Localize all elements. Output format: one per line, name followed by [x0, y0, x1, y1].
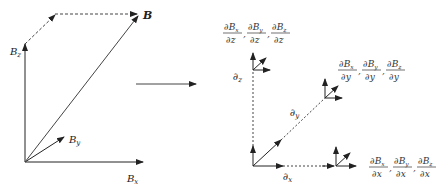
- x-frac3-num: ∂Bz: [418, 156, 433, 167]
- origin-y-arrow: [253, 140, 281, 166]
- y-frac1-num: ∂Bx: [339, 59, 354, 70]
- y-triad: [325, 79, 342, 98]
- dz-label: ∂z: [233, 71, 242, 84]
- diagram-canvas: B Bz By Bx: [0, 0, 444, 191]
- by-label: By: [68, 134, 81, 147]
- x-frac3-den: ∂x: [420, 169, 430, 179]
- by-arrow: [25, 137, 64, 162]
- svg-text:,: ,: [389, 163, 392, 173]
- z-derivatives: ∂Bx ∂z , ∂By ∂z , ∂Bz ∂z: [223, 22, 290, 45]
- y-frac2-den: ∂y: [365, 72, 376, 82]
- right-gradient-diagram: ∂z ∂y ∂x ∂Bx ∂z , ∂By ∂z , ∂Bz ∂z ∂Bx ∂y…: [223, 22, 436, 184]
- dy-dashed-path: [281, 98, 325, 140]
- x-frac1-num: ∂Bx: [370, 156, 385, 167]
- z-frac1-num: ∂Bx: [224, 22, 239, 33]
- x-frac1-den: ∂x: [372, 169, 382, 179]
- y-triad-diag-arrow: [325, 86, 338, 98]
- z-frac3-den: ∂z: [274, 35, 284, 45]
- svg-text:,: ,: [382, 66, 385, 76]
- dy-label: ∂y: [290, 107, 300, 120]
- bx-label: Bx: [126, 173, 138, 186]
- svg-text:,: ,: [358, 66, 361, 76]
- z-frac3-num: ∂Bz: [272, 22, 287, 33]
- y-frac3-num: ∂Bz: [387, 59, 402, 70]
- b-vector-arrow: [25, 16, 138, 162]
- x-triad-diag-arrow: [336, 153, 350, 166]
- z-frac2-num: ∂By: [248, 22, 263, 34]
- svg-text:,: ,: [267, 29, 270, 39]
- z-frac2-den: ∂z: [250, 35, 260, 45]
- x-frac2-num: ∂By: [394, 156, 409, 168]
- dashed-bz-to-by: [25, 15, 55, 44]
- y-frac2-num: ∂By: [363, 59, 378, 71]
- y-frac3-den: ∂y: [389, 72, 400, 82]
- bz-label: Bz: [9, 46, 21, 59]
- x-derivatives: ∂Bx ∂x , ∂By ∂x , ∂Bz ∂x: [369, 156, 436, 179]
- z-triad: [253, 53, 270, 70]
- dx-label: ∂x: [283, 171, 292, 184]
- x-triad: [322, 147, 356, 166]
- y-derivatives: ∂Bx ∂y , ∂By ∂y , ∂Bz ∂y: [338, 59, 405, 82]
- b-label: B: [142, 9, 152, 22]
- svg-text:,: ,: [243, 29, 246, 39]
- y-frac1-den: ∂y: [341, 72, 352, 82]
- x-frac2-den: ∂x: [396, 169, 406, 179]
- z-triad-diag-arrow: [253, 58, 266, 70]
- svg-text:,: ,: [413, 163, 416, 173]
- left-vector-diagram: B Bz By Bx: [9, 9, 152, 186]
- z-frac1-den: ∂z: [226, 35, 236, 45]
